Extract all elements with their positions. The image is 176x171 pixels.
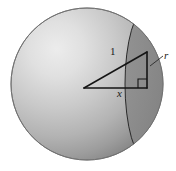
- cap-group: [125, 8, 176, 160]
- cap-front-face: [125, 8, 176, 160]
- sphere-diagram-svg: [0, 0, 176, 171]
- cap-radius-label: r: [164, 50, 168, 61]
- horizontal-leg-label: x: [117, 88, 122, 99]
- sphere-cap-figure: 1 x r: [0, 0, 176, 171]
- hypotenuse-label: 1: [110, 46, 116, 57]
